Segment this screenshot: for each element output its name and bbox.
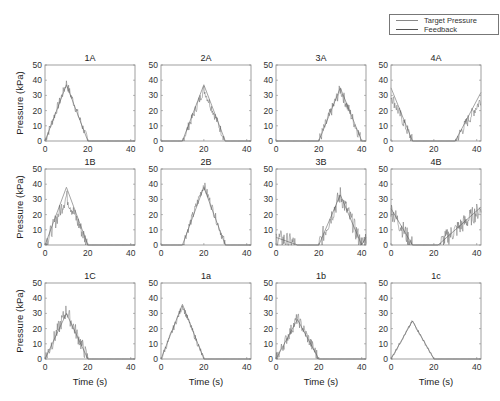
legend: Target Pressure Feedback: [389, 14, 499, 35]
svg-text:50: 50: [149, 60, 159, 70]
svg-text:0: 0: [383, 240, 388, 250]
subplot-1b: 01020304050020401bTime (s): [264, 271, 367, 387]
svg-text:0: 0: [43, 248, 48, 258]
svg-text:0: 0: [153, 354, 158, 364]
svg-text:0: 0: [159, 248, 164, 258]
subplot-1B: 01020304050020401BPressure (kPa): [14, 157, 136, 258]
x-axis-label: Time (s): [419, 376, 453, 387]
svg-text:50: 50: [149, 278, 159, 288]
svg-text:10: 10: [33, 225, 43, 235]
subplot-1C: 01020304050020401CPressure (kPa)Time (s): [14, 271, 136, 387]
subplot-1A: 01020304050020401APressure (kPa): [14, 53, 136, 154]
subplot-title: 1a: [201, 271, 211, 281]
svg-text:10: 10: [379, 225, 389, 235]
feedback-line: [276, 314, 366, 359]
svg-text:0: 0: [268, 354, 273, 364]
target-pressure-line: [45, 313, 135, 359]
svg-text:0: 0: [159, 144, 164, 154]
svg-text:20: 20: [314, 362, 324, 372]
svg-text:20: 20: [379, 210, 389, 220]
svg-text:40: 40: [33, 75, 43, 85]
subplot-2A: 01020304050020402A: [149, 53, 252, 154]
subplot-title: 1c: [431, 271, 441, 281]
svg-text:40: 40: [264, 293, 274, 303]
svg-text:10: 10: [379, 339, 389, 349]
svg-text:30: 30: [264, 308, 274, 318]
target-pressure-line: [161, 304, 251, 359]
svg-text:20: 20: [33, 210, 43, 220]
subplot-title: 4A: [430, 53, 441, 63]
svg-text:40: 40: [33, 293, 43, 303]
svg-text:0: 0: [268, 136, 273, 146]
svg-text:30: 30: [379, 194, 389, 204]
svg-text:10: 10: [264, 339, 274, 349]
y-axis-label: Pressure (kPa): [14, 71, 25, 134]
svg-text:20: 20: [149, 210, 159, 220]
feedback-line: [45, 81, 135, 141]
subplot-2B: 01020304050020402B: [149, 157, 252, 258]
svg-text:20: 20: [379, 324, 389, 334]
subplot-title: 1C: [84, 271, 96, 281]
svg-text:40: 40: [242, 144, 252, 154]
subplot-3A: 01020304050020403A: [264, 53, 367, 154]
target-pressure-line: [391, 207, 481, 245]
svg-text:0: 0: [268, 240, 273, 250]
target-pressure-line: [276, 319, 366, 359]
svg-text:40: 40: [264, 75, 274, 85]
svg-text:20: 20: [379, 106, 389, 116]
svg-text:0: 0: [37, 136, 42, 146]
subplot-3B: 01020304050020403B: [264, 157, 367, 258]
svg-text:10: 10: [264, 225, 274, 235]
svg-text:0: 0: [389, 362, 394, 372]
subplot-title: 4B: [430, 157, 441, 167]
x-axis-label: Time (s): [73, 376, 107, 387]
svg-text:30: 30: [379, 308, 389, 318]
svg-text:20: 20: [149, 106, 159, 116]
y-axis-label: Pressure (kPa): [14, 289, 25, 352]
svg-text:0: 0: [153, 240, 158, 250]
svg-text:50: 50: [149, 164, 159, 174]
legend-entry-target: Target Pressure: [390, 16, 498, 25]
legend-entry-feedback: Feedback: [390, 25, 498, 34]
svg-text:20: 20: [83, 144, 93, 154]
svg-text:20: 20: [199, 248, 209, 258]
svg-text:20: 20: [314, 144, 324, 154]
svg-text:30: 30: [149, 308, 159, 318]
subplot-1c: 01020304050020401cTime (s): [379, 271, 482, 387]
svg-text:30: 30: [149, 194, 159, 204]
svg-text:0: 0: [383, 136, 388, 146]
svg-text:20: 20: [314, 248, 324, 258]
y-axis-label: Pressure (kPa): [14, 175, 25, 238]
svg-text:30: 30: [264, 194, 274, 204]
svg-text:40: 40: [472, 362, 482, 372]
subplot-title: 3A: [315, 53, 326, 63]
svg-text:40: 40: [357, 248, 367, 258]
svg-text:0: 0: [37, 354, 42, 364]
svg-text:0: 0: [383, 354, 388, 364]
x-axis-label: Time (s): [189, 376, 223, 387]
svg-text:20: 20: [83, 248, 93, 258]
target-pressure-line: [45, 85, 135, 141]
feedback-line: [391, 97, 481, 141]
svg-text:40: 40: [33, 179, 43, 189]
svg-text:50: 50: [264, 60, 274, 70]
svg-text:40: 40: [472, 248, 482, 258]
svg-text:40: 40: [264, 179, 274, 189]
svg-text:50: 50: [33, 60, 43, 70]
svg-text:40: 40: [126, 362, 136, 372]
feedback-line: [391, 204, 481, 245]
svg-text:10: 10: [149, 339, 159, 349]
legend-label-target: Target Pressure: [424, 16, 477, 25]
svg-text:50: 50: [264, 278, 274, 288]
svg-text:50: 50: [33, 164, 43, 174]
legend-label-feedback: Feedback: [424, 25, 457, 34]
svg-text:20: 20: [199, 362, 209, 372]
svg-text:10: 10: [33, 121, 43, 131]
svg-text:10: 10: [33, 339, 43, 349]
svg-text:20: 20: [264, 210, 274, 220]
svg-text:20: 20: [429, 144, 439, 154]
svg-text:50: 50: [379, 60, 389, 70]
feedback-line: [391, 321, 481, 359]
target-pressure-line: [391, 321, 481, 359]
svg-text:0: 0: [43, 144, 48, 154]
